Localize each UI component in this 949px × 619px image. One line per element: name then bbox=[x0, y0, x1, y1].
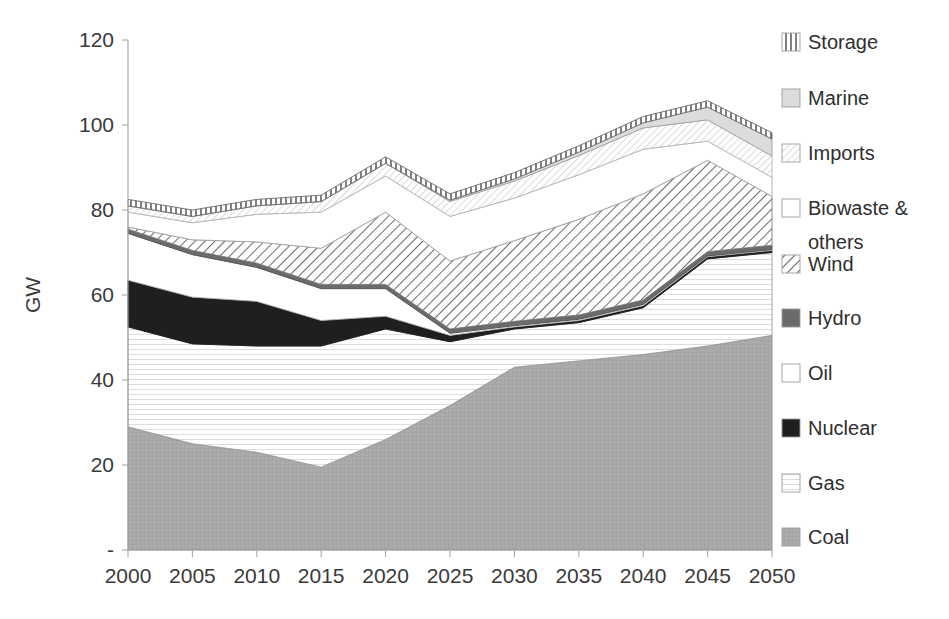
legend-swatch-imports bbox=[782, 144, 800, 162]
y-tick-label-80: 80 bbox=[91, 198, 114, 221]
legend-label-others: others bbox=[808, 231, 864, 253]
legend-label-storage: Storage bbox=[808, 31, 878, 53]
legend-item-biowaste: Biowaste & bbox=[782, 197, 909, 219]
x-tick-label-2010: 2010 bbox=[233, 564, 280, 587]
x-axis: 2000200520102015202020252030203520402045… bbox=[105, 550, 796, 587]
y-tick-label-60: 60 bbox=[91, 283, 114, 306]
y-tick-label-120: 120 bbox=[79, 28, 114, 51]
legend-item-hydro: Hydro bbox=[782, 307, 861, 329]
x-tick-label-2005: 2005 bbox=[169, 564, 216, 587]
legend-swatch-coal bbox=[782, 528, 800, 546]
legend-item-coal: Coal bbox=[782, 526, 849, 548]
legend-label-hydro: Hydro bbox=[808, 307, 861, 329]
legend-swatch-gas bbox=[782, 474, 800, 492]
legend-label-marine: Marine bbox=[808, 87, 869, 109]
legend-label-coal: Coal bbox=[808, 526, 849, 548]
chart-container: -20406080100120GW 2000200520102015202020… bbox=[0, 0, 949, 619]
legend-swatch-marine bbox=[782, 89, 800, 107]
x-tick-label-2030: 2030 bbox=[491, 564, 538, 587]
legend-item-wind: Wind bbox=[782, 253, 854, 275]
legend-swatch-hydro bbox=[782, 309, 800, 327]
y-tick-label-100: 100 bbox=[79, 113, 114, 136]
legend-swatch-biowaste bbox=[782, 199, 800, 217]
legend-label-nuclear: Nuclear bbox=[808, 417, 877, 439]
legend-swatch-oil bbox=[782, 364, 800, 382]
x-tick-label-2025: 2025 bbox=[427, 564, 474, 587]
legend-item-imports: Imports bbox=[782, 142, 875, 164]
legend-item-others: others bbox=[808, 231, 864, 253]
x-tick-label-2045: 2045 bbox=[684, 564, 731, 587]
x-tick-label-2035: 2035 bbox=[555, 564, 602, 587]
x-tick-label-2050: 2050 bbox=[749, 564, 796, 587]
x-tick-label-2040: 2040 bbox=[620, 564, 667, 587]
legend-item-gas: Gas bbox=[782, 472, 845, 494]
legend-label-biowaste: Biowaste & bbox=[808, 197, 909, 219]
legend-label-gas: Gas bbox=[808, 472, 845, 494]
y-axis-title: GW bbox=[21, 277, 44, 313]
plot-areas bbox=[128, 101, 772, 550]
chart-legend: StorageMarineImportsBiowaste &othersWind… bbox=[782, 31, 909, 548]
legend-item-nuclear: Nuclear bbox=[782, 417, 877, 439]
x-tick-label-2015: 2015 bbox=[298, 564, 345, 587]
legend-label-oil: Oil bbox=[808, 362, 832, 384]
x-tick-label-2020: 2020 bbox=[362, 564, 409, 587]
legend-label-wind: Wind bbox=[808, 253, 854, 275]
legend-label-imports: Imports bbox=[808, 142, 875, 164]
legend-swatch-nuclear bbox=[782, 419, 800, 437]
legend-swatch-wind bbox=[782, 255, 800, 273]
legend-item-oil: Oil bbox=[782, 362, 832, 384]
x-tick-label-2000: 2000 bbox=[105, 564, 152, 587]
y-tick-label-0: - bbox=[107, 538, 114, 561]
legend-item-storage: Storage bbox=[782, 31, 878, 53]
y-tick-label-20: 20 bbox=[91, 453, 114, 476]
y-tick-label-40: 40 bbox=[91, 368, 114, 391]
y-axis: -20406080100120GW bbox=[21, 28, 128, 561]
legend-item-marine: Marine bbox=[782, 87, 869, 109]
legend-swatch-storage bbox=[782, 33, 800, 51]
stacked-area-chart: -20406080100120GW 2000200520102015202020… bbox=[0, 0, 949, 619]
